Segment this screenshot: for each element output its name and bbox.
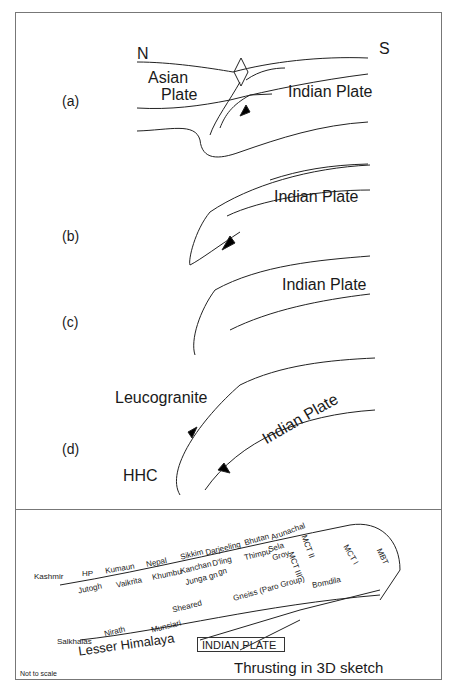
indian-plate-label-a: Indian Plate	[288, 83, 373, 101]
region-kashmir: Kashmir	[34, 572, 63, 581]
sketch-title: Thrusting in 3D sketch	[234, 659, 383, 676]
indian-plate-box: INDIAN PLATE	[197, 637, 285, 652]
panel-c-label: (c)	[62, 314, 78, 330]
indian-plate-label-b: Indian Plate	[274, 188, 359, 206]
north-label: N	[137, 45, 149, 63]
indian-plate-label-c: Indian Plate	[282, 276, 367, 294]
panel-d-label: (d)	[62, 441, 79, 457]
hhc-label: HHC	[123, 467, 158, 485]
asian-plate-label-2: Plate	[161, 86, 197, 104]
leucogranite-label: Leucogranite	[115, 389, 208, 407]
region-hp: HP	[82, 569, 93, 578]
not-to-scale-note: Not to scale	[20, 670, 57, 677]
asian-plate-label-1: Asian	[148, 69, 188, 87]
panel-a-label: (a)	[62, 93, 79, 109]
panel-b-label: (b)	[62, 228, 79, 244]
south-label: S	[379, 40, 390, 58]
